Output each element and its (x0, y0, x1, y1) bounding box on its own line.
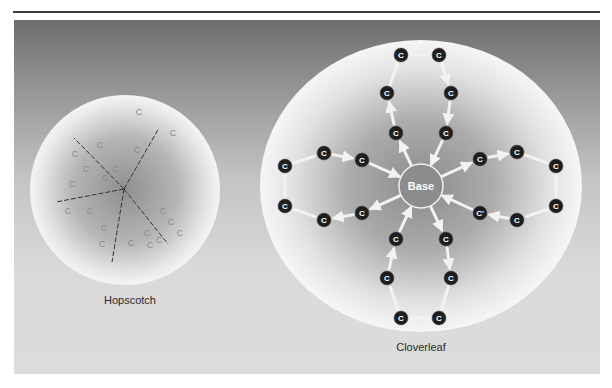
hopscotch-c-marker: C (87, 206, 94, 216)
c-node-label: C (384, 89, 390, 98)
c-node-label: C (321, 216, 327, 225)
c-node-label: C (443, 235, 449, 244)
c-node-label: C (359, 209, 365, 218)
c-node-label: C (393, 129, 399, 138)
hopscotch-c-marker: C (160, 206, 167, 216)
c-node-label: C (514, 216, 520, 225)
c-node-label: C (553, 162, 559, 171)
hopscotch-c-marker: C (144, 228, 151, 238)
c-node-label: C (514, 148, 520, 157)
hopscotch-diagram: CCCCCCCCCCCCCCCCCCCC (30, 95, 220, 285)
hopscotch-c-marker: C (72, 149, 79, 159)
c-node-label: C (393, 235, 399, 244)
c-node-label: C (359, 156, 365, 165)
c-node-label: C (398, 51, 404, 60)
c-node-label: C (553, 202, 559, 211)
c-node-label: C (477, 155, 483, 164)
c-node-label: C (398, 314, 404, 323)
c-node-label: C (436, 314, 442, 323)
cloverleaf-diagram: BaseCCCCCCCCCCCCCCCC'CCCCCCCC (260, 40, 582, 332)
c-node-label: C (321, 149, 327, 158)
hopscotch-c-marker: C (168, 217, 175, 227)
hopscotch-c-marker: C (170, 128, 177, 138)
c-node-label: C (282, 202, 288, 211)
c-node-label: C (282, 162, 288, 171)
hopscotch-c-marker: C (69, 179, 76, 189)
hopscotch-c-marker: C (99, 239, 106, 249)
c-node-label: C (436, 51, 442, 60)
hopscotch-c-marker: C (97, 140, 104, 150)
hopscotch-c-marker: C (128, 238, 135, 248)
c-node-label: C (448, 274, 454, 283)
hopscotch-c-marker: C (177, 228, 184, 238)
diagram-canvas: CCCCCCCCCCCCCCCCCCCC BaseCCCCCCCCCCCCCCC… (0, 0, 612, 388)
hopscotch-c-marker: C (102, 173, 109, 183)
hopscotch-c-marker: C (136, 107, 143, 117)
hopscotch-c-marker: C (83, 164, 90, 174)
c-node-label: C' (476, 209, 484, 218)
hopscotch-label: Hopscotch (80, 294, 180, 306)
hopscotch-c-marker: C (65, 206, 72, 216)
hopscotch-c-marker: C (156, 235, 163, 245)
base-label: Base (408, 180, 434, 192)
c-node-label: C (448, 89, 454, 98)
cloverleaf-label: Cloverleaf (371, 341, 471, 353)
hopscotch-c-marker: C (147, 240, 154, 250)
hopscotch-c-marker: C (134, 145, 141, 155)
c-node-label: C (384, 274, 390, 283)
hopscotch-c-marker: C (113, 164, 120, 174)
c-node-label: C (443, 129, 449, 138)
hopscotch-c-marker: C (101, 223, 108, 233)
